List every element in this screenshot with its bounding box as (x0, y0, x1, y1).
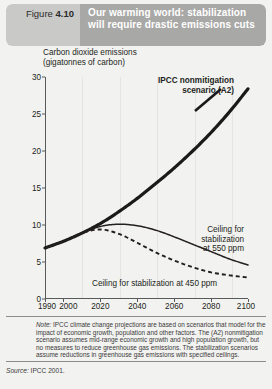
y-tick-label-5: 5 (36, 257, 41, 266)
y-tick-label-15: 15 (32, 184, 41, 193)
figure-source: Source: IPCC 2001. (6, 367, 65, 374)
x-tick-label-2040: 2040 (128, 302, 146, 311)
figure-label: Figure (26, 8, 53, 19)
source-prefix: Source: (6, 367, 29, 374)
figure-number-text: Figure 4.10 (26, 8, 74, 19)
y-axis-title: Carbon dioxide emissions (gigatonnes of … (43, 48, 137, 67)
chart-area: Carbon dioxide emissions (gigatonnes of … (0, 48, 272, 316)
figure-title: Our warming world: stabilization will re… (80, 4, 266, 46)
note-text: IPCC climate change projections are base… (36, 321, 265, 358)
x-tick-label-2020: 2020 (91, 302, 109, 311)
x-tick-label-1990: 1990 (38, 302, 56, 311)
figure-number-box: Figure 4.10 (6, 4, 80, 46)
annotation-ceiling-550: Ceiling for stabilization at 550 ppm (201, 225, 244, 254)
y-tick-label-25: 25 (32, 110, 41, 119)
divider-top (6, 316, 266, 317)
y-tick-label-30: 30 (32, 73, 41, 82)
x-tick-label-2060: 2060 (165, 302, 183, 311)
figure-header: Figure 4.10 Our warming world: stabiliza… (6, 4, 266, 46)
plot-region: 30 25 20 15 10 5 0 1990 2000 2020 2040 2… (45, 77, 248, 299)
y-tick-label-10: 10 (32, 221, 41, 230)
source-text: IPCC 2001. (29, 367, 65, 374)
series-canvas (45, 77, 248, 299)
y-tick-label-20: 20 (32, 146, 41, 155)
divider-bottom (6, 361, 266, 362)
note-prefix: Note: (36, 321, 51, 328)
x-tick-label-2080: 2080 (202, 302, 220, 311)
figure-number: 4.10 (56, 8, 75, 19)
annotation-ceiling-450: Ceiling for stabilization at 450 ppm (92, 279, 217, 289)
x-tick-label-2100: 2100 (237, 302, 255, 311)
annotation-nonmitigation: IPCC nonmitigation scenario (A2) (158, 76, 234, 95)
figure-note: Note: IPCC climate change projections ar… (36, 321, 266, 359)
x-tick-label-2000: 2000 (59, 302, 77, 311)
